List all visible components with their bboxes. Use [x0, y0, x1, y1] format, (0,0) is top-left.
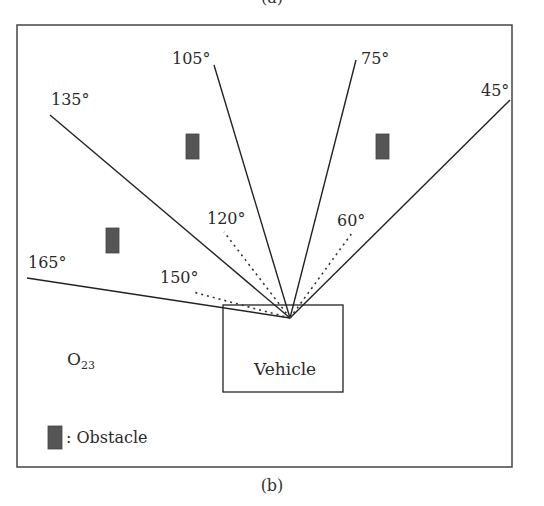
legend-label: : Obstacle	[66, 429, 148, 447]
label-165: 165°	[28, 254, 67, 272]
obstacle-1	[186, 134, 199, 159]
label-45: 45°	[481, 82, 509, 100]
label-60: 60°	[337, 212, 365, 230]
bottom-caption: (b)	[0, 476, 544, 495]
legend-obstacle-swatch	[48, 426, 62, 449]
label-75: 75°	[361, 50, 389, 68]
region-label-subscript: 23	[81, 359, 95, 372]
frame	[17, 25, 512, 467]
ray-45	[290, 100, 510, 318]
ray-105	[214, 65, 290, 318]
vehicle-label: Vehicle	[254, 360, 316, 378]
label-135: 135°	[51, 91, 90, 109]
label-150: 150°	[160, 269, 199, 287]
ray-75	[290, 60, 356, 318]
label-105: 105°	[172, 50, 211, 68]
obstacle-3	[106, 228, 119, 253]
region-label: O23	[67, 350, 95, 375]
region-label-main: O	[67, 349, 81, 369]
obstacle-2	[376, 134, 389, 159]
label-120: 120°	[207, 210, 246, 228]
